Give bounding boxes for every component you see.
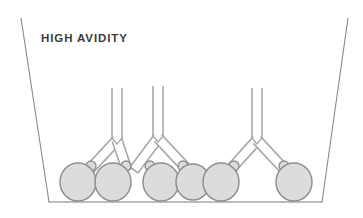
well-right-wall xyxy=(322,18,348,202)
antigen-2 xyxy=(95,161,131,201)
antigen-6 xyxy=(276,161,312,201)
figure-canvas: HIGH AVIDITY xyxy=(0,0,363,218)
antigen-body xyxy=(143,163,179,201)
antigen-body xyxy=(95,163,131,201)
antibody-fc-stem xyxy=(112,88,122,140)
antigen-5 xyxy=(203,161,239,201)
antigen-body xyxy=(60,163,96,201)
antigen-1 xyxy=(60,161,96,201)
antigen-body xyxy=(276,163,312,201)
antibody-layer xyxy=(85,86,288,173)
antibody-2 xyxy=(130,86,190,173)
antibody-fc-stem xyxy=(153,86,163,138)
antigen-3 xyxy=(143,161,179,201)
antigen-body xyxy=(203,163,239,201)
well-left-wall xyxy=(21,18,49,202)
page-title: HIGH AVIDITY xyxy=(41,33,128,45)
antibody-fc-stem xyxy=(252,88,262,140)
